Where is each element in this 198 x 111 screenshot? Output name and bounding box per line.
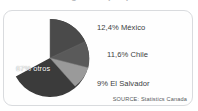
- infographic-screenshot: Inmigración por país 67% otros: [0, 0, 198, 111]
- chart-card: 67% otros 12,4% México 11,6% Chile 9% El…: [3, 10, 193, 106]
- cropped-title-strip: Inmigración por país: [0, 0, 198, 9]
- pie-slice-label-otros: 67% otros: [16, 64, 50, 73]
- pie-chart: 67% otros: [9, 17, 91, 99]
- cropped-title-text: Inmigración por país: [52, 0, 145, 1]
- chart-legend: 12,4% México 11,6% Chile 9% El Salvador: [92, 17, 190, 101]
- pie-chart-svg: [9, 17, 91, 99]
- legend-item-chile: 11,6% Chile: [107, 50, 148, 59]
- legend-item-mexico: 12,4% México: [97, 23, 145, 32]
- legend-item-elsalvador: 9% El Salvador: [97, 79, 150, 88]
- source-note: SOURCE: Statistics Canada: [113, 96, 187, 102]
